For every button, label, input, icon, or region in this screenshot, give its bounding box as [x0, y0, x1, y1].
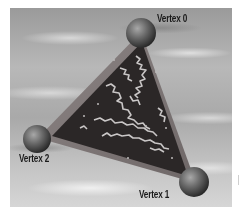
diagram-image: Vertex 0 Vertex 2 Vertex 1 — [10, 8, 232, 207]
vertex-2-sphere-icon — [23, 125, 51, 153]
vertex-1-sphere-icon — [179, 167, 209, 197]
edge-artifact — [238, 175, 239, 185]
vertex-0-label: Vertex 0 — [157, 13, 187, 24]
vertex-1-label: Vertex 1 — [139, 189, 169, 200]
vertex-0-sphere-icon — [126, 18, 156, 48]
vertex-2-label: Vertex 2 — [19, 153, 49, 164]
triangle-scene — [10, 8, 232, 207]
